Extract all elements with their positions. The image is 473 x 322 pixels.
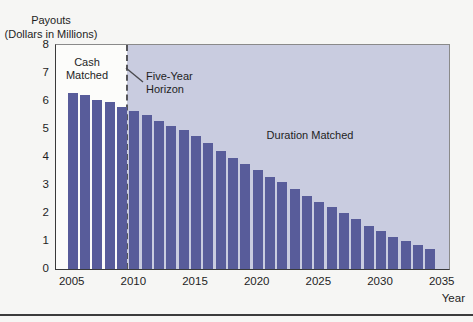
bar-2033 [413, 245, 423, 269]
bar-2023 [290, 189, 300, 269]
y-axis-title-line1: Payouts [3, 14, 99, 28]
bar-2010 [129, 111, 139, 269]
x-tick-2025: 2025 [298, 275, 338, 288]
bar-2005 [68, 93, 78, 269]
bar-2032 [401, 241, 411, 269]
bar-2034 [425, 249, 435, 269]
bar-2016 [203, 143, 213, 269]
x-tick-2020: 2020 [237, 275, 277, 288]
y-axis-title: Payouts (Dollars in Millions) [3, 14, 99, 42]
y-tick-7: 7 [26, 65, 49, 79]
bar-2021 [265, 177, 275, 269]
bar-2026 [327, 207, 337, 269]
bar-2006 [80, 95, 90, 269]
x-tick-2005: 2005 [52, 275, 92, 288]
y-tick-2: 2 [26, 205, 49, 219]
bar-2011 [142, 115, 152, 269]
y-tick-4: 4 [26, 149, 49, 163]
bar-2030 [376, 231, 386, 269]
bar-2008 [105, 102, 115, 269]
bar-2027 [339, 213, 349, 269]
bar-2018 [228, 158, 238, 269]
y-tick-0: 0 [26, 261, 49, 275]
x-tick-2010: 2010 [113, 275, 153, 288]
bar-2020 [253, 170, 263, 269]
cash-matched-label: Cash Matched [59, 56, 115, 82]
x-axis-title: Year [425, 292, 465, 304]
five-year-horizon-label: Five-Year Horizon [146, 70, 208, 96]
payout-bar-chart-figure: Payouts (Dollars in Millions) 012345678 … [0, 0, 473, 322]
bar-2012 [154, 121, 164, 269]
x-tick-2035: 2035 [422, 275, 462, 288]
y-tick-6: 6 [26, 93, 49, 107]
bar-2013 [166, 126, 176, 269]
y-tick-8: 8 [26, 37, 49, 51]
bar-2015 [191, 136, 201, 269]
y-tick-5: 5 [26, 121, 49, 135]
x-tick-2015: 2015 [175, 275, 215, 288]
bar-2009 [117, 107, 127, 269]
bar-2019 [240, 164, 250, 269]
duration-matched-label: Duration Matched [248, 129, 372, 142]
x-tick-2030: 2030 [360, 275, 400, 288]
bar-2031 [388, 237, 398, 269]
y-tick-3: 3 [26, 177, 49, 191]
bar-2028 [351, 219, 361, 269]
five-year-callout-line [124, 65, 146, 85]
bar-2007 [92, 100, 102, 269]
bar-2017 [216, 151, 226, 269]
y-tick-1: 1 [26, 233, 49, 247]
bar-2029 [364, 226, 374, 269]
bar-2014 [179, 130, 189, 269]
bar-2025 [314, 202, 324, 269]
y-axis-title-line2: (Dollars in Millions) [3, 28, 99, 42]
bar-2022 [277, 182, 287, 269]
page-divider-rule [0, 314, 473, 316]
bar-2024 [302, 196, 312, 269]
